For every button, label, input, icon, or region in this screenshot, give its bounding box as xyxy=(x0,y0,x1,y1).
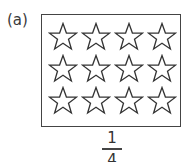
star-icon xyxy=(145,20,178,52)
star-icon xyxy=(79,20,112,52)
star-grid xyxy=(46,20,178,116)
star-icon xyxy=(112,84,145,116)
star-icon xyxy=(46,84,79,116)
star-icon xyxy=(79,84,112,116)
fraction: 1 4 xyxy=(100,131,124,162)
star-icon xyxy=(46,52,79,84)
fraction-denominator: 4 xyxy=(100,153,124,163)
star-icon xyxy=(79,52,112,84)
star-icon xyxy=(112,20,145,52)
part-label: (a) xyxy=(7,11,28,29)
fraction-numerator: 1 xyxy=(100,131,124,146)
fraction-bar xyxy=(102,148,122,150)
star-icon xyxy=(46,20,79,52)
star-icon xyxy=(145,52,178,84)
star-box xyxy=(41,14,181,127)
star-icon xyxy=(112,52,145,84)
star-icon xyxy=(145,84,178,116)
